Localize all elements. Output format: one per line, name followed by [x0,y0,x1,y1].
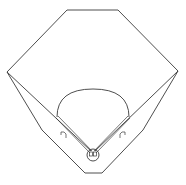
left-foul-line [7,72,91,151]
baseball-field-diagram: Baseball field outline [0,0,186,185]
right-foul-line [95,71,178,151]
outer-boundary [7,71,178,173]
first-base-line [96,118,130,153]
left-dugout [61,132,66,138]
field-svg [0,0,186,185]
outfield-fence [7,10,178,72]
third-base-line-inner [58,116,92,151]
home-plate-circle [87,149,99,161]
third-base-line [56,118,90,153]
infield-arc [57,89,129,117]
first-base-line-inner [94,116,128,151]
right-dugout [120,132,125,138]
